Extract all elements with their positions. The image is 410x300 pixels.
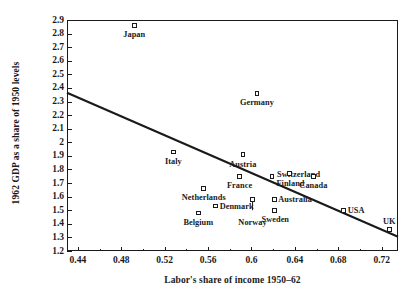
data-point-label: USA [348, 207, 365, 215]
data-point-marker[interactable] [250, 197, 255, 202]
data-point-marker[interactable] [241, 152, 246, 157]
data-point-label: France [227, 182, 252, 190]
data-point-label: Sweden [262, 216, 290, 224]
scatter-chart-figure: 1962 GDP as a share of 1950 levels Labor… [0, 0, 410, 300]
data-point-marker[interactable] [270, 174, 275, 179]
data-point-marker[interactable] [387, 227, 392, 232]
data-point-marker[interactable] [272, 208, 277, 213]
data-point-label: Japan [123, 31, 145, 39]
data-point-marker[interactable] [132, 23, 137, 28]
data-point-marker[interactable] [341, 208, 346, 213]
data-point-marker[interactable] [196, 211, 201, 216]
data-point-label: Germany [240, 99, 274, 107]
data-point-marker[interactable] [213, 204, 218, 209]
trend-line-layer [0, 0, 410, 300]
data-point-label: Italy [165, 158, 182, 166]
data-point-marker[interactable] [237, 174, 242, 179]
data-point-label: UK [383, 218, 396, 226]
data-point-label: Austria [229, 161, 256, 169]
data-point-label: Belgium [183, 219, 213, 227]
data-point-marker[interactable] [272, 197, 277, 202]
data-point-marker[interactable] [255, 91, 260, 96]
data-point-label: Denmark [220, 203, 254, 211]
data-point-marker[interactable] [287, 171, 292, 176]
data-point-marker[interactable] [201, 186, 206, 191]
data-point-marker[interactable] [171, 150, 176, 155]
data-point-label: Australia [278, 196, 312, 204]
data-point-label: Canada [299, 182, 327, 190]
data-point-marker[interactable] [311, 174, 316, 179]
